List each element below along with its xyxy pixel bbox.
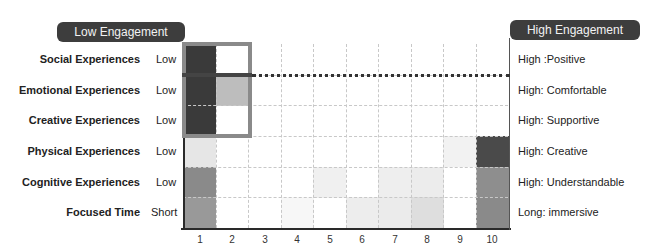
heatmap-cell	[378, 197, 411, 228]
heatmap-cell	[183, 197, 216, 228]
grid-line-horizontal	[183, 167, 508, 168]
heatmap-cell	[411, 167, 444, 198]
row-label: Physical Experiences	[27, 145, 140, 157]
heatmap-cell	[281, 197, 314, 228]
dotted-threshold-line	[252, 74, 510, 77]
heatmap-cell	[476, 197, 509, 228]
heatmap-cell	[476, 167, 509, 198]
low-engagement-header: Low Engagement	[57, 22, 185, 42]
low-level-label: Low	[156, 53, 176, 65]
highlight-divider	[182, 73, 252, 77]
low-level-labels: Low Low Low Low Low Short	[146, 44, 182, 228]
heatmap-cell	[183, 136, 216, 167]
row-label: Focused Time	[66, 206, 140, 218]
high-level-label: High: Supportive	[518, 114, 599, 126]
grid-line-horizontal	[183, 197, 508, 198]
x-tick: 4	[281, 234, 313, 245]
heatmap-cell	[476, 136, 509, 167]
x-tick: 5	[314, 234, 346, 245]
high-level-label: High: Comfortable	[518, 84, 607, 96]
heatmap-cell	[443, 136, 476, 167]
bottom-axis	[181, 228, 511, 230]
heatmap-cell	[411, 197, 444, 228]
low-level-label: Low	[156, 176, 176, 188]
x-tick: 1	[184, 234, 216, 245]
low-level-label: Low	[156, 114, 176, 126]
x-tick: 9	[444, 234, 476, 245]
x-tick: 6	[346, 234, 378, 245]
row-label: Social Experiences	[40, 53, 140, 65]
row-label: Emotional Experiences	[19, 84, 140, 96]
high-level-label: High: Understandable	[518, 176, 624, 188]
low-level-label: Low	[156, 145, 176, 157]
heatmap-cell	[183, 167, 216, 198]
right-axis	[509, 38, 510, 230]
row-label: Creative Experiences	[29, 114, 140, 126]
high-level-label: High: Creative	[518, 145, 588, 157]
row-label: Cognitive Experiences	[22, 176, 140, 188]
x-tick: 10	[476, 234, 508, 245]
low-level-label: Short	[151, 206, 177, 218]
x-tick: 2	[216, 234, 248, 245]
high-engagement-header: High Engagement	[510, 20, 640, 40]
highlight-box	[182, 42, 252, 138]
heatmap-cell	[313, 167, 346, 198]
high-level-labels: High :Positive High: Comfortable High: S…	[518, 44, 658, 228]
x-tick: 7	[379, 234, 411, 245]
x-tick: 3	[249, 234, 281, 245]
high-level-label: High :Positive	[518, 53, 585, 65]
low-level-label: Low	[156, 84, 176, 96]
heatmap-cell	[378, 167, 411, 198]
x-tick: 8	[411, 234, 443, 245]
row-labels: Social Experiences Emotional Experiences…	[0, 44, 140, 228]
heatmap-cell	[346, 197, 379, 228]
high-level-label: Long: immersive	[518, 206, 599, 218]
